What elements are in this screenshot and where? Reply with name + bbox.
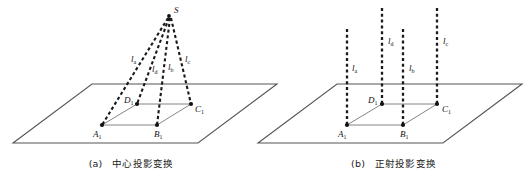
caption-b: (b) 正射投影变换: [262, 156, 525, 170]
caption-a: (a) 中心投影变换: [0, 156, 262, 170]
ray-label-ld-a: ld: [152, 64, 158, 75]
ray-label-lc-b: lc: [443, 36, 449, 47]
ray-label-lb-b: lb: [409, 63, 415, 74]
ground-plane-b: [258, 84, 522, 143]
caption-b-index: (b): [351, 158, 365, 169]
quad-b: [347, 104, 437, 125]
ray-label-ld-b: ld: [388, 36, 394, 47]
ground-plane-a: [13, 84, 277, 143]
vertex-a1-a: [100, 123, 104, 127]
vertex-label-d1-a: D1: [123, 95, 134, 106]
apex-point-s: [167, 14, 171, 18]
projection-diagram: S la ld lb lc A1 B1: [0, 0, 525, 178]
vertex-label-c1-a: C1: [195, 104, 204, 115]
caption-a-text: 中心投影变换: [112, 158, 173, 169]
vertex-c1-a: [189, 102, 193, 106]
quad-a: [102, 104, 191, 125]
quad-edge-d1a1-b: [347, 104, 382, 125]
panel-a: S la ld lb lc A1 B1: [13, 5, 277, 143]
vertex-b1-a: [155, 123, 159, 127]
quad-edge-d1a1: [102, 104, 137, 125]
vertex-label-d1-b: D1: [367, 95, 378, 106]
caption-b-text: 正射投影变换: [375, 158, 436, 169]
panel-b: la ld lb lc A1 B1 C1: [258, 8, 522, 143]
vertex-label-b1-b: B1: [400, 129, 409, 140]
ray-label-la-a: la: [131, 54, 137, 65]
vertex-label-a1-a: A1: [92, 129, 102, 140]
caption-row: (a) 中心投影变换 (b) 正射投影变换: [0, 156, 525, 170]
figure-root: S la ld lb lc A1 B1: [0, 0, 525, 178]
vertex-label-a1-b: A1: [337, 129, 347, 140]
ray-label-lc-a: lc: [185, 54, 191, 65]
vertex-d1-a: [135, 102, 139, 106]
vertex-label-b1-a: B1: [154, 129, 163, 140]
vertex-label-c1-b: C1: [442, 104, 451, 115]
caption-a-index: (a): [89, 158, 103, 169]
ray-label-la-b: la: [352, 63, 358, 74]
vertex-c1-b: [435, 102, 439, 106]
quad-edge-b1c1: [157, 104, 191, 125]
vertex-d1-b: [380, 102, 384, 106]
apex-label-s: S: [174, 5, 179, 15]
quad-edge-b1c1-b: [403, 104, 437, 125]
vertex-a1-b: [345, 123, 349, 127]
vertex-b1-b: [401, 123, 405, 127]
ray-la-a: [102, 18, 168, 125]
ray-label-lb-a: lb: [168, 62, 174, 73]
